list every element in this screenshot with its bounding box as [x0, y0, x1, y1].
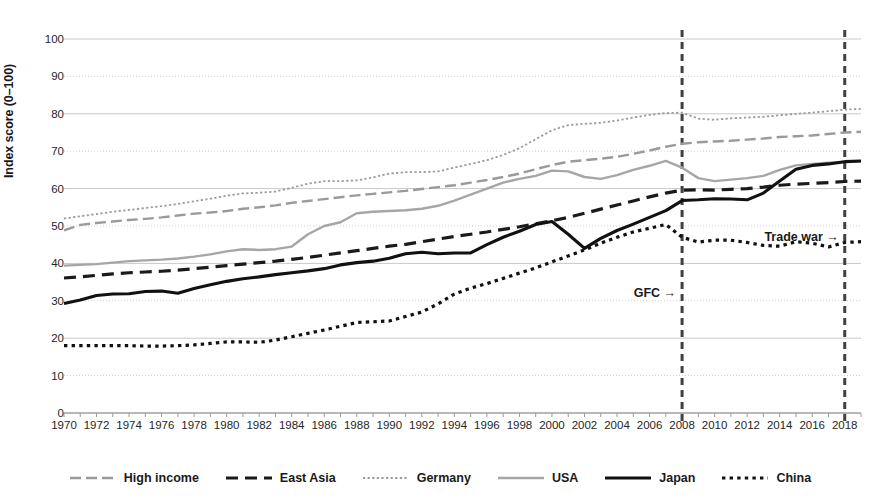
legend-swatch-high-income	[69, 472, 117, 484]
series-line-germany	[64, 109, 861, 219]
x-axis-tick-label: 2000	[539, 419, 565, 431]
x-axis-tick-label: 1992	[409, 419, 435, 431]
x-axis-tick-label: 1986	[311, 419, 337, 431]
x-axis-tick-label: 2018	[832, 419, 858, 431]
x-axis-tick-label: 1994	[442, 419, 468, 431]
legend-item-china[interactable]: China	[721, 471, 811, 485]
legend-item-usa[interactable]: USA	[497, 471, 578, 485]
chart-container: Index score (0–100) 01020304050607080901…	[0, 0, 880, 504]
x-axis-tick-label: 2004	[604, 419, 630, 431]
x-axis-tick-label: 1996	[474, 419, 500, 431]
legend-label: High income	[124, 471, 199, 485]
series-line-japan	[64, 161, 861, 303]
y-axis-tick-label: 40	[24, 257, 64, 269]
y-axis-tick-label: 50	[24, 220, 64, 232]
legend-label: Germany	[417, 471, 471, 485]
x-axis-tick-label: 1974	[116, 419, 142, 431]
x-axis-tick-label: 1982	[246, 419, 272, 431]
x-axis-tick-label: 1980	[214, 419, 240, 431]
series-line-usa	[64, 161, 861, 266]
x-axis-tick-label: 1978	[181, 419, 207, 431]
legend-item-east-asia[interactable]: East Asia	[225, 471, 336, 485]
y-axis-title: Index score (0–100)	[2, 0, 16, 178]
x-axis-tick-label: 2010	[702, 419, 728, 431]
y-axis-tick-label: 30	[24, 295, 64, 307]
y-axis-tick-label: 0	[24, 407, 64, 419]
legend-swatch-china	[721, 472, 769, 484]
x-axis-tick-label: 1988	[344, 419, 370, 431]
y-axis-tick-label: 90	[24, 70, 64, 82]
legend-item-germany[interactable]: Germany	[362, 471, 471, 485]
y-axis-tick-label: 20	[24, 332, 64, 344]
y-axis-tick-label: 70	[24, 145, 64, 157]
y-axis-tick-label: 10	[24, 370, 64, 382]
x-axis-tick-label: 2006	[637, 419, 663, 431]
x-axis-tick-label: 2012	[734, 419, 760, 431]
x-axis-tick-label: 2014	[767, 419, 793, 431]
series-line-high-income	[64, 132, 861, 231]
x-axis-tick-label: 1970	[51, 419, 77, 431]
legend-item-high-income[interactable]: High income	[69, 471, 199, 485]
legend-label: Japan	[659, 471, 695, 485]
y-axis-tick-label: 100	[24, 33, 64, 45]
legend-item-japan[interactable]: Japan	[604, 471, 695, 485]
x-axis-tick-label: 2016	[799, 419, 825, 431]
legend-label: USA	[552, 471, 578, 485]
legend-swatch-east-asia	[225, 472, 273, 484]
legend-label: China	[776, 471, 811, 485]
x-axis-tick-label: 1998	[507, 419, 533, 431]
annotation-label: GFC →	[634, 286, 676, 300]
x-axis-tick-label: 2002	[572, 419, 598, 431]
x-axis-tick-labels: 1970197219741976197819801982198419861988…	[0, 419, 880, 441]
series-line-china	[64, 225, 861, 347]
chart-legend: High incomeEast AsiaGermanyUSAJapanChina	[0, 463, 880, 493]
annotation-label: Trade war →	[764, 230, 838, 244]
x-axis-tick-label: 2008	[669, 419, 695, 431]
x-axis-tick-label: 1990	[377, 419, 403, 431]
legend-swatch-japan	[604, 472, 652, 484]
legend-label: East Asia	[280, 471, 336, 485]
x-axis-tick-label: 1972	[84, 419, 110, 431]
legend-swatch-germany	[362, 472, 410, 484]
x-axis-tick-label: 1976	[149, 419, 175, 431]
x-axis-tick-label: 1984	[279, 419, 305, 431]
y-axis-tick-label: 60	[24, 183, 64, 195]
legend-swatch-usa	[497, 472, 545, 484]
y-axis-tick-label: 80	[24, 108, 64, 120]
